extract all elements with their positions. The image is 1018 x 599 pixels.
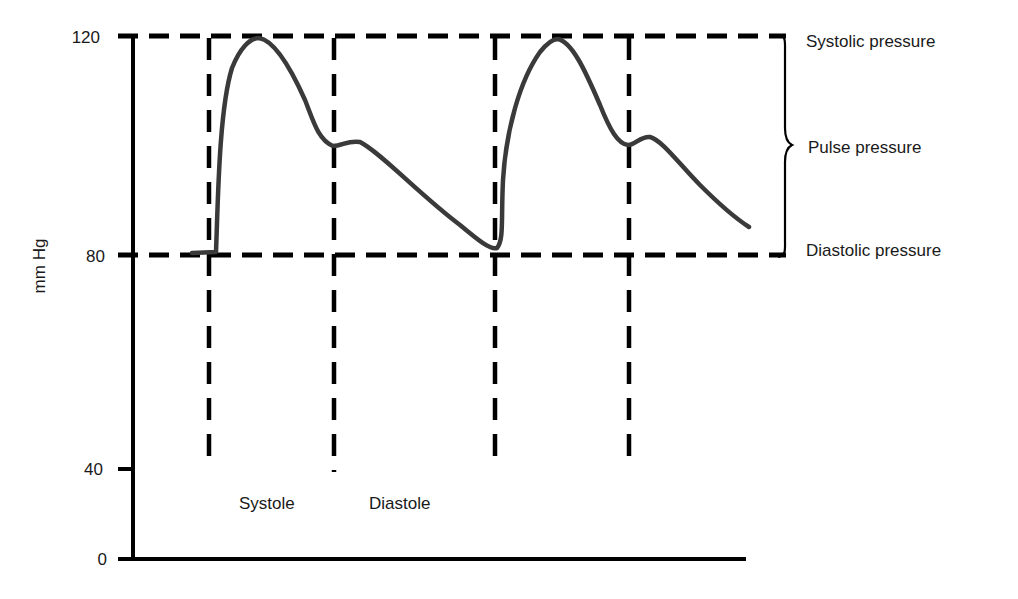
systolic-pressure-label: Systolic pressure <box>806 32 935 51</box>
y-tick-40: 40 <box>84 460 103 479</box>
systole-label: Systole <box>239 494 295 513</box>
pressure-waveform-diagram: 120 80 40 0 mm Hg Systolic pressure Puls… <box>0 0 1018 599</box>
y-tick-80: 80 <box>86 247 105 266</box>
y-tick-120: 120 <box>72 28 100 47</box>
diastolic-pressure-label: Diastolic pressure <box>806 241 941 260</box>
diastole-label: Diastole <box>369 494 430 513</box>
pressure-waveform <box>192 38 749 253</box>
y-axis-label: mm Hg <box>30 239 49 294</box>
pulse-pressure-bracket <box>779 35 792 257</box>
y-tick-0: 0 <box>98 550 107 569</box>
pulse-pressure-label: Pulse pressure <box>808 138 921 157</box>
